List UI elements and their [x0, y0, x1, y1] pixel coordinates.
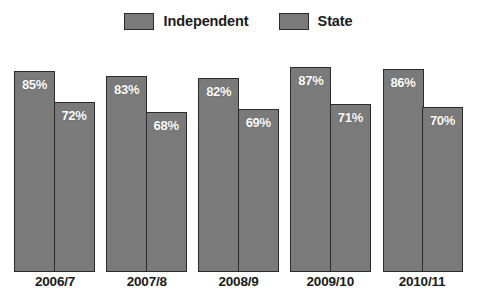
bar-value-label: 85%: [22, 78, 47, 91]
bar-independent: 82%: [198, 78, 239, 272]
bar-state: 68%: [146, 112, 187, 272]
category-label: 2006/7: [14, 272, 96, 294]
plot-area: 85% 72% 83% 68% 82% 69%: [0, 36, 477, 272]
legend-item-state: State: [279, 13, 353, 30]
bar-state: 72%: [54, 102, 95, 272]
legend-swatch-state: [279, 13, 309, 30]
chart-legend: Independent State: [0, 8, 477, 34]
legend-item-independent: Independent: [124, 13, 248, 30]
bar-value-label: 69%: [246, 116, 271, 129]
category-label: 2007/8: [106, 272, 188, 294]
bar-independent: 86%: [383, 69, 424, 272]
bar-group: 86% 70%: [383, 36, 464, 272]
bar-value-label: 87%: [298, 74, 323, 87]
bar-independent: 83%: [106, 76, 147, 272]
bar-chart: Independent State 85% 72% 83% 6: [0, 0, 477, 306]
bar-groups: 85% 72% 83% 68% 82% 69%: [14, 36, 463, 272]
bar-value-label: 83%: [114, 83, 139, 96]
bar-group: 87% 71%: [290, 36, 371, 272]
bar-state: 69%: [238, 109, 279, 272]
bar-value-label: 82%: [206, 85, 231, 98]
legend-swatch-independent: [124, 13, 154, 30]
bar-group: 83% 68%: [106, 36, 187, 272]
bar-group: 85% 72%: [14, 36, 95, 272]
bar-state: 70%: [422, 107, 463, 272]
legend-label-state: State: [318, 13, 353, 29]
bar-value-label: 72%: [61, 109, 86, 122]
bar-value-label: 71%: [338, 111, 363, 124]
bar-group: 82% 69%: [198, 36, 279, 272]
bar-value-label: 68%: [154, 119, 179, 132]
bar-value-label: 70%: [430, 114, 455, 127]
category-label: 2009/10: [289, 272, 371, 294]
legend-label-independent: Independent: [163, 13, 248, 29]
category-axis: 2006/7 2007/8 2008/9 2009/10 2010/11: [14, 272, 463, 294]
bar-value-label: 86%: [390, 76, 415, 89]
category-label: 2010/11: [381, 272, 463, 294]
bar-independent: 87%: [290, 67, 331, 272]
category-label: 2008/9: [198, 272, 280, 294]
bar-independent: 85%: [14, 71, 55, 272]
bar-state: 71%: [330, 104, 371, 272]
